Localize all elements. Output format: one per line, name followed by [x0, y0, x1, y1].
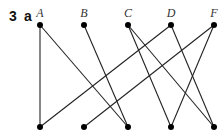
bipartite-graph: [0, 0, 222, 137]
edge-A-3: [40, 25, 128, 127]
node-F: [211, 22, 217, 28]
node-D: [168, 22, 174, 28]
node-C: [125, 22, 131, 28]
node-3: [125, 124, 131, 130]
node-4: [168, 124, 174, 130]
node-5: [211, 124, 217, 130]
edge-F-2: [84, 25, 214, 127]
edge-D-1: [40, 25, 171, 127]
edge-C-5: [128, 25, 214, 127]
node-1: [37, 124, 43, 130]
node-2: [81, 124, 87, 130]
node-B: [81, 22, 87, 28]
node-A: [37, 22, 43, 28]
